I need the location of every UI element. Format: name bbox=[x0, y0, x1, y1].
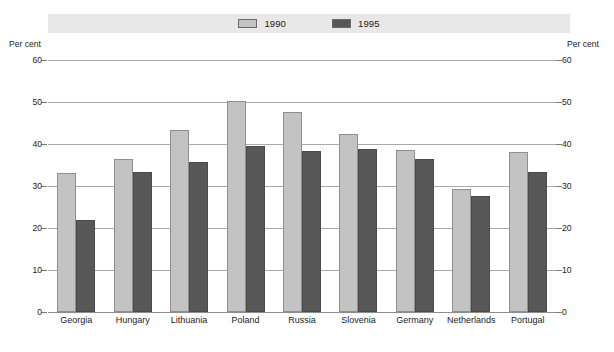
y-tick-label-left-10: 10 bbox=[2, 266, 42, 275]
bar-portugal-1995[interactable] bbox=[528, 172, 547, 312]
bar-russia-1995[interactable] bbox=[302, 151, 321, 312]
y-tick-label-left-40: 40 bbox=[2, 140, 42, 149]
category-label-hungary: Hungary bbox=[104, 316, 160, 325]
bar-group-netherlands bbox=[443, 60, 499, 312]
bar-georgia-1990[interactable] bbox=[57, 173, 76, 312]
bar-poland-1990[interactable] bbox=[227, 101, 246, 312]
legend-swatch-1990-icon bbox=[238, 19, 257, 28]
bar-lithuania-1990[interactable] bbox=[170, 130, 189, 312]
bar-group-georgia bbox=[48, 60, 104, 312]
category-label-lithuania: Lithuania bbox=[161, 316, 217, 325]
category-label-georgia: Georgia bbox=[48, 316, 104, 325]
right-axis-caption: Per cent bbox=[567, 40, 599, 49]
legend-entry-1990[interactable]: 1990 bbox=[238, 19, 286, 29]
category-label-slovenia: Slovenia bbox=[330, 316, 386, 325]
chart-legend: 1990 1995 bbox=[48, 14, 570, 33]
bar-germany-1990[interactable] bbox=[396, 150, 415, 312]
legend-label-1995: 1995 bbox=[358, 19, 380, 29]
y-tick-label-left-0: 0 bbox=[2, 308, 42, 317]
bar-slovenia-1995[interactable] bbox=[358, 149, 377, 312]
y-tick-label-right-30: 30 bbox=[562, 182, 602, 191]
bar-group-russia bbox=[274, 60, 330, 312]
chart-page: 1990 1995 Per cent Per cent 001010202030… bbox=[0, 0, 614, 352]
bar-russia-1990[interactable] bbox=[283, 112, 302, 312]
y-tick-label-left-50: 50 bbox=[2, 98, 42, 107]
bar-portugal-1990[interactable] bbox=[509, 152, 528, 312]
bar-germany-1995[interactable] bbox=[415, 159, 434, 312]
y-tick-label-left-30: 30 bbox=[2, 182, 42, 191]
y-tick-label-left-20: 20 bbox=[2, 224, 42, 233]
bar-netherlands-1995[interactable] bbox=[471, 196, 490, 312]
plot-area: 00101020203030404050506060 bbox=[48, 60, 556, 312]
bar-lithuania-1995[interactable] bbox=[189, 162, 208, 312]
bar-slovenia-1990[interactable] bbox=[339, 134, 358, 312]
y-tick-label-left-60: 60 bbox=[2, 56, 42, 65]
y-tick-label-right-20: 20 bbox=[562, 224, 602, 233]
y-tick-label-right-10: 10 bbox=[562, 266, 602, 275]
legend-entry-1995[interactable]: 1995 bbox=[332, 19, 380, 29]
bar-group-poland bbox=[217, 60, 273, 312]
legend-label-1990: 1990 bbox=[264, 19, 286, 29]
category-label-portugal: Portugal bbox=[500, 316, 556, 325]
y-tick-label-right-60: 60 bbox=[562, 56, 602, 65]
bar-group-lithuania bbox=[161, 60, 217, 312]
category-label-germany: Germany bbox=[387, 316, 443, 325]
bar-group-germany bbox=[387, 60, 443, 312]
y-tick-label-right-40: 40 bbox=[562, 140, 602, 149]
category-labels: GeorgiaHungaryLithuaniaPolandRussiaSlove… bbox=[48, 316, 556, 325]
category-label-poland: Poland bbox=[217, 316, 273, 325]
bar-group-portugal bbox=[500, 60, 556, 312]
category-label-russia: Russia bbox=[274, 316, 330, 325]
bar-groups bbox=[48, 60, 556, 312]
left-axis-caption: Per cent bbox=[9, 40, 41, 49]
bar-hungary-1990[interactable] bbox=[114, 159, 133, 312]
bar-georgia-1995[interactable] bbox=[76, 220, 95, 312]
bar-group-slovenia bbox=[330, 60, 386, 312]
bar-group-hungary bbox=[104, 60, 160, 312]
y-tick-label-right-50: 50 bbox=[562, 98, 602, 107]
y-tick-label-right-0: 0 bbox=[562, 308, 602, 317]
bar-netherlands-1990[interactable] bbox=[452, 189, 471, 312]
legend-swatch-1995-icon bbox=[332, 19, 351, 28]
category-label-netherlands: Netherlands bbox=[443, 316, 499, 325]
bar-poland-1995[interactable] bbox=[246, 146, 265, 312]
bar-hungary-1995[interactable] bbox=[133, 172, 152, 312]
gridline-0 bbox=[48, 312, 556, 313]
